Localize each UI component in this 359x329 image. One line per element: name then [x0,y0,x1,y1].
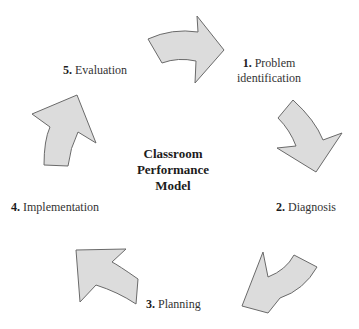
step-1-text-line-1: Problem [255,56,296,70]
step-4-text: Implementation [23,200,99,214]
step-2-number: 2. [276,200,285,214]
step-5-number: 5. [63,63,72,77]
center-title: Classroom Performance Model [118,146,228,194]
arrow-to-evaluation-icon [32,95,96,166]
step-3-text: Planning [158,297,201,311]
step-4-label: 4. Implementation [11,200,99,215]
step-2-text: Diagnosis [288,200,336,214]
classroom-performance-cycle-diagram: Classroom Performance Model 1. Problem i… [0,0,359,329]
step-3-label: 3. Planning [146,297,201,312]
arrow-to-problem-identification-icon [148,16,224,83]
step-4-number: 4. [11,200,20,214]
step-3-number: 3. [146,297,155,311]
step-1-text-line-2: identification [224,71,314,86]
step-5-text: Evaluation [75,63,127,77]
arrow-to-planning-icon [242,252,317,313]
arrow-to-diagnosis-icon [277,100,342,172]
center-title-line-1: Classroom [118,146,228,162]
center-title-line-3: Model [118,178,228,194]
step-2-label: 2. Diagnosis [276,200,336,215]
step-1-number: 1. [243,56,252,70]
arrow-to-implementation-icon [76,249,138,304]
step-1-label: 1. Problem identification [224,56,314,86]
step-5-label: 5. Evaluation [63,63,127,78]
center-title-line-2: Performance [118,162,228,178]
